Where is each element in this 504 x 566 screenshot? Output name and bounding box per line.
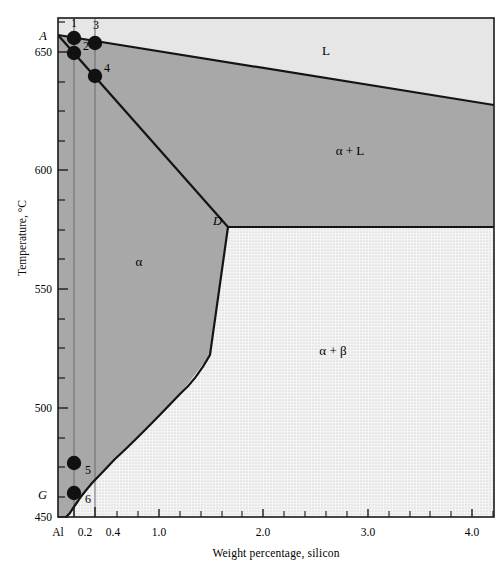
node-label-A: A xyxy=(38,29,47,43)
y-axis-title: Temperature, °C xyxy=(16,168,28,308)
x-tick-label-2.0: 2.0 xyxy=(256,526,271,538)
marker-point-1 xyxy=(67,31,81,45)
point-label-2: 2 xyxy=(83,39,89,53)
phase-diagram-svg: 650 600 550 500 450 Al 0.2 0.4 1.0 2.0 3… xyxy=(0,0,504,566)
point-label-6: 6 xyxy=(85,492,91,506)
region-label-alpha-plus-liquid: α + L xyxy=(336,143,365,158)
marker-point-2 xyxy=(67,46,81,60)
y-tick-label-450: 450 xyxy=(35,511,53,523)
point-label-1: 1 xyxy=(71,16,77,30)
x-tick-label-4.0: 4.0 xyxy=(465,526,480,538)
region-label-alpha: α xyxy=(136,254,143,269)
region-label-alpha-plus-beta: α + β xyxy=(319,343,347,358)
y-tick-label-500: 500 xyxy=(35,402,53,414)
point-label-5: 5 xyxy=(85,463,91,477)
marker-point-3 xyxy=(88,36,102,50)
point-label-3: 3 xyxy=(93,18,99,32)
x-axis-title: Weight percentage, silicon xyxy=(212,547,339,560)
y-tick-label-650: 650 xyxy=(35,46,53,58)
x-tick-label-0.2: 0.2 xyxy=(78,526,93,538)
phase-diagram-figure: Temperature, °C xyxy=(0,0,504,566)
y-tick-label-550: 550 xyxy=(35,283,53,295)
marker-point-4 xyxy=(88,69,102,83)
x-tick-label-1.0: 1.0 xyxy=(152,526,167,538)
point-label-4: 4 xyxy=(104,61,110,75)
node-label-G: G xyxy=(38,488,47,502)
node-label-D: D xyxy=(212,214,222,228)
marker-point-6 xyxy=(67,486,81,500)
x-tick-label-0.4: 0.4 xyxy=(106,526,121,538)
x-tick-label-3.0: 3.0 xyxy=(361,526,376,538)
x-origin-label: Al xyxy=(52,526,64,538)
region-label-liquid: L xyxy=(322,43,330,58)
y-tick-label-600: 600 xyxy=(35,164,53,176)
marker-point-5 xyxy=(67,456,81,470)
